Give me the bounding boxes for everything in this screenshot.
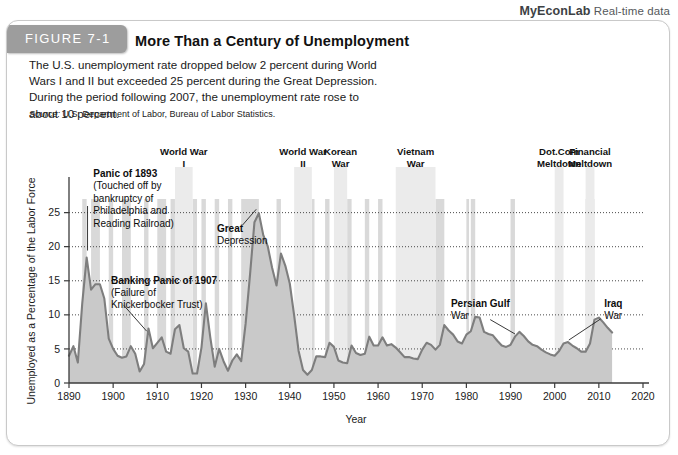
y-tick-label-5: 5: [54, 343, 60, 355]
annotation-panic-1893: Panic of 1893(Touched off bybankruptcy o…: [93, 168, 174, 229]
x-tick-label-1990: 1990: [499, 390, 523, 402]
figure-number-tab: FIGURE 7-1: [7, 25, 127, 53]
x-tick-label-2010: 2010: [587, 390, 611, 402]
band-label-group: World WarIWorld WarIIKoreanWarVietnamWar…: [160, 146, 612, 169]
x-tick-label-2020: 2020: [631, 390, 655, 402]
figure-source-label: Source:: [29, 109, 60, 119]
band-label-world-war-i: World WarI: [160, 146, 208, 169]
x-tick-label-1970: 1970: [411, 390, 435, 402]
x-tick-label-2000: 2000: [543, 390, 567, 402]
x-tick-label-1940: 1940: [278, 390, 302, 402]
myeconlab-banner: MyEconLab Real-time data: [519, 4, 670, 18]
x-tick-label-1890: 1890: [57, 390, 81, 402]
y-tick-label-0: 0: [54, 377, 60, 389]
recession-band: [312, 199, 315, 383]
x-tick-label-1950: 1950: [322, 390, 346, 402]
figure-title: More Than a Century of Unemployment: [135, 33, 409, 49]
band-label-world-war-ii: World WarII: [279, 146, 327, 169]
x-tick-label-1920: 1920: [190, 390, 214, 402]
x-tick-label-1930: 1930: [234, 390, 258, 402]
x-tick-label-1980: 1980: [455, 390, 479, 402]
x-tick-label-1960: 1960: [366, 390, 390, 402]
myeconlab-tagline: Real-time data: [594, 5, 670, 17]
x-axis-title: Year: [345, 413, 367, 425]
y-tick-label-15: 15: [48, 274, 60, 286]
band-label-financial-meltdown: FinancialMeltdown: [568, 146, 612, 169]
figure-source: Source: U.S. Department of Labor, Bureau…: [29, 109, 275, 119]
y-tick-label-10: 10: [48, 308, 60, 320]
y-tick-label-25: 25: [48, 206, 60, 218]
x-tick-label-1910: 1910: [146, 390, 170, 402]
y-axis-title: Unemployed as a Percentage of the Labor …: [25, 177, 37, 404]
annotation-group: Panic of 1893(Touched off bybankruptcy o…: [88, 168, 623, 340]
figure-panel: FIGURE 7-1 More Than a Century of Unempl…: [6, 20, 670, 446]
x-tick-label-1900: 1900: [101, 390, 125, 402]
band-label-vietnam-war: VietnamWar: [397, 146, 434, 169]
recession-band: [193, 199, 197, 383]
annotation-iraq-war: IraqWar: [604, 298, 623, 321]
chart-svg: 1890190019101920193019401950196019701980…: [21, 125, 661, 435]
figure-source-text: U.S. Department of Labor, Bureau of Labo…: [60, 109, 275, 119]
y-tick-label-20: 20: [48, 240, 60, 252]
band-label-korean-war: KoreanWar: [324, 146, 357, 169]
unemployment-chart: 1890190019101920193019401950196019701980…: [21, 125, 661, 435]
myeconlab-brand: MyEconLab: [519, 4, 590, 18]
